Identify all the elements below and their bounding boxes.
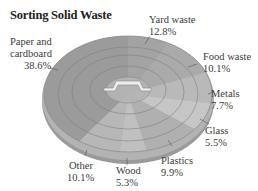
label-plastics-line1: Plastics bbox=[161, 155, 193, 167]
label-food-value: 10.1% bbox=[203, 63, 251, 75]
label-other: Other 10.1% bbox=[67, 160, 94, 184]
label-yard-line1: Yard waste bbox=[149, 14, 195, 26]
label-plastics-value: 9.9% bbox=[161, 167, 193, 179]
label-paper-value: 38.6% bbox=[10, 60, 52, 72]
label-paper: Paper and cardboard 38.6% bbox=[10, 36, 52, 72]
label-metals: Metals 7.7% bbox=[211, 88, 240, 112]
label-paper-line2: cardboard bbox=[10, 48, 52, 60]
label-plastics: Plastics 9.9% bbox=[161, 155, 193, 179]
label-wood-value: 5.3% bbox=[116, 177, 141, 189]
label-other-value: 10.1% bbox=[67, 172, 94, 184]
label-glass-line1: Glass bbox=[205, 125, 228, 137]
label-food: Food waste 10.1% bbox=[203, 51, 251, 75]
label-other-line1: Other bbox=[67, 160, 94, 172]
label-wood-line1: Wood bbox=[116, 165, 141, 177]
label-metals-line1: Metals bbox=[211, 88, 240, 100]
label-yard-value: 12.8% bbox=[149, 26, 195, 38]
label-food-line1: Food waste bbox=[203, 51, 251, 63]
label-metals-value: 7.7% bbox=[211, 100, 240, 112]
label-paper-line1: Paper and bbox=[10, 36, 52, 48]
label-wood: Wood 5.3% bbox=[116, 165, 141, 189]
label-yard: Yard waste 12.8% bbox=[149, 14, 195, 38]
label-glass-value: 5.5% bbox=[205, 137, 228, 149]
label-glass: Glass 5.5% bbox=[205, 125, 228, 149]
